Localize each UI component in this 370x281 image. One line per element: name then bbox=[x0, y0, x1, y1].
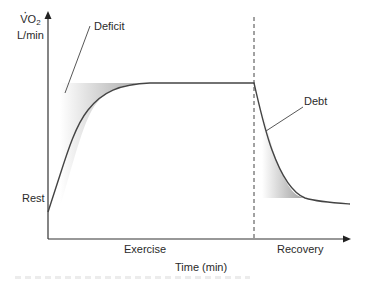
x-axis-arrow-icon bbox=[343, 236, 351, 243]
phase-label-exercise: Exercise bbox=[124, 244, 166, 255]
cropped-caption bbox=[15, 276, 250, 279]
debt-label: Debt bbox=[304, 96, 327, 107]
deficit-shaded-area bbox=[60, 83, 150, 205]
phase-label-recovery: Recovery bbox=[277, 244, 323, 255]
y-axis-label-units: L/min bbox=[17, 29, 44, 42]
deficit-leader-line bbox=[65, 26, 90, 93]
y-axis-label: VO2 L/min bbox=[17, 13, 44, 42]
debt-leader-line bbox=[266, 107, 303, 131]
y-axis-label-subscript: 2 bbox=[36, 18, 40, 27]
deficit-label: Deficit bbox=[94, 21, 125, 32]
x-axis-label: Time (min) bbox=[175, 262, 227, 273]
y-axis-label-vo: VO bbox=[20, 13, 36, 25]
oxygen-uptake-diagram bbox=[0, 0, 370, 281]
rest-label: Rest bbox=[22, 193, 45, 204]
y-axis-arrow-icon bbox=[45, 11, 52, 19]
debt-shaded-area bbox=[262, 105, 305, 198]
